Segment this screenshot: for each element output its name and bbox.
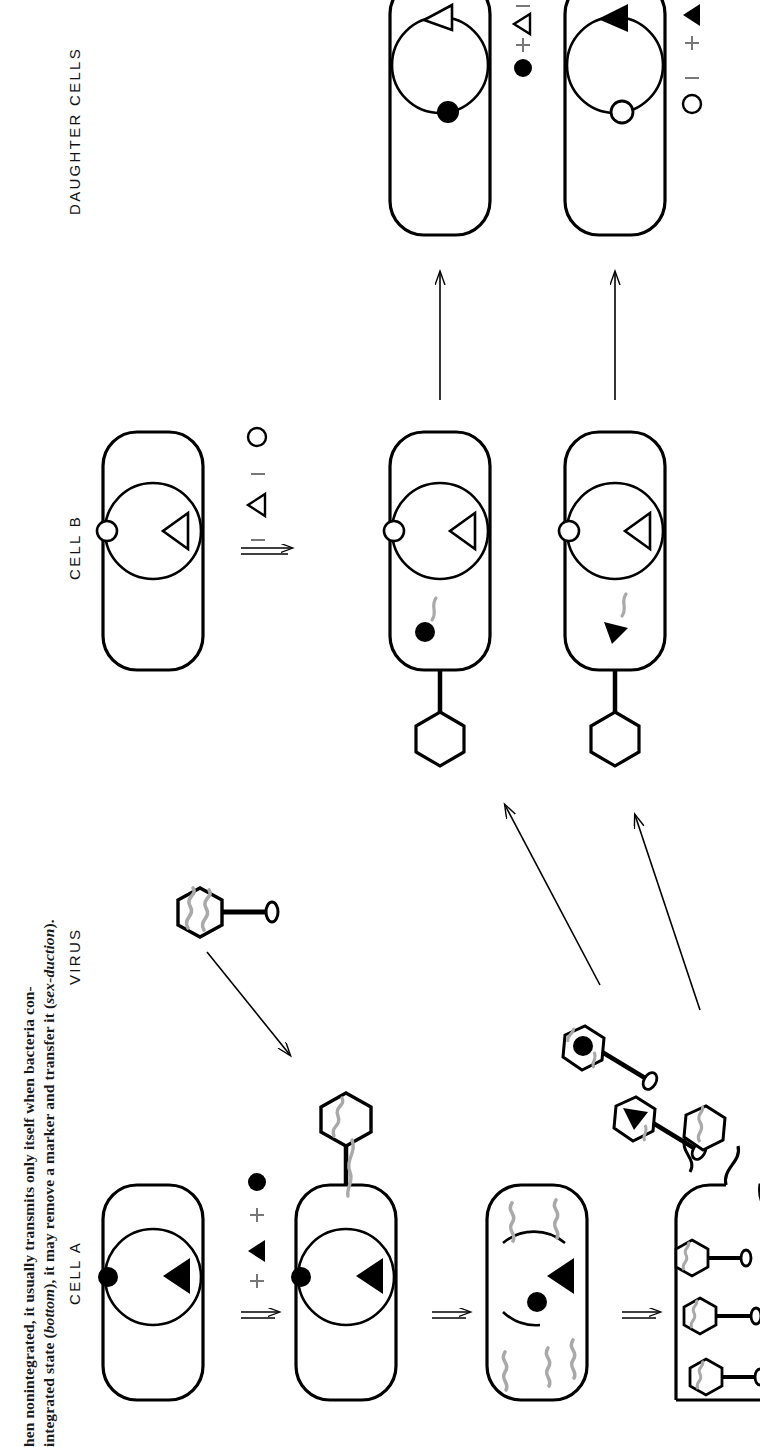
legend-open-circle-icon — [248, 428, 266, 446]
transduced-marker-filled-circle — [573, 1036, 593, 1056]
legend-daughter-1 — [514, 6, 532, 77]
legend-open-circle-icon — [683, 95, 701, 113]
progeny-virus-icon — [684, 1298, 760, 1334]
marker-filled-circle — [437, 101, 459, 123]
transduction-arrow-2 — [635, 815, 700, 1010]
virus-head — [591, 712, 639, 766]
marker-filled-circle — [291, 1267, 311, 1287]
released-virus-with-marker — [563, 1026, 660, 1092]
free-virus-particle — [178, 888, 278, 937]
transduction-arrow-1 — [505, 805, 600, 985]
attached-virus-icon — [321, 1093, 371, 1196]
cell-membrane — [390, 432, 490, 670]
diagram-canvas — [0, 0, 760, 1447]
legend-open-triangle-icon — [514, 14, 530, 34]
legend-open-triangle-icon — [248, 494, 265, 516]
virus-tail-tip — [266, 902, 278, 922]
legend-filled-triangle-icon — [248, 1240, 265, 1262]
daughter-cell-1 — [390, 0, 490, 235]
infection-arrow — [207, 952, 290, 1055]
cell-a-lysing — [563, 1026, 760, 1400]
plus-sign-icon — [250, 1274, 264, 1288]
plus-sign-icon — [685, 36, 699, 50]
cell-membrane — [103, 432, 203, 670]
lysis-opening — [725, 1146, 738, 1185]
process-arrow-a3-a4 — [622, 1312, 660, 1318]
attached-virus-icon — [591, 670, 639, 766]
legend-filled-circle-icon — [248, 1173, 266, 1191]
process-arrow-a1-a2 — [241, 1312, 279, 1318]
attached-virus-icon — [416, 670, 464, 766]
legend-filled-circle-icon — [514, 59, 532, 77]
marker-open-circle — [97, 521, 117, 541]
plus-sign-icon — [250, 1208, 264, 1222]
process-arrow-b1-b2 — [241, 548, 292, 554]
transduced-marker-filled-circle — [415, 622, 435, 642]
cell-b-infected-triangle — [559, 432, 665, 766]
progeny-virus-icon — [676, 1240, 751, 1276]
marker-open-circle — [384, 521, 404, 541]
marker-filled-circle — [98, 1267, 118, 1287]
marker-open-circle — [559, 521, 579, 541]
released-virus-icon — [684, 1106, 725, 1172]
marker-filled-circle — [527, 1292, 547, 1312]
cell-a-infected — [291, 1093, 396, 1400]
progeny-virus-icon — [690, 1359, 760, 1395]
cell-a-intact — [98, 1185, 203, 1400]
legend-cell-a — [248, 1173, 266, 1288]
marker-open-circle — [611, 101, 633, 123]
legend-filled-triangle-icon — [683, 4, 700, 26]
cell-b-infected-marker — [384, 432, 490, 766]
plus-sign-icon — [516, 38, 530, 52]
legend-daughter-2 — [683, 4, 701, 113]
process-arrow-a2-a3 — [432, 1312, 470, 1318]
legend-cell-b — [248, 428, 266, 540]
cell-a-replicating — [487, 1185, 587, 1400]
daughter-cell-2 — [565, 0, 665, 235]
cell-b-intact — [97, 432, 203, 670]
virus-head — [321, 1093, 371, 1146]
virus-head — [416, 712, 464, 766]
virus-head — [178, 888, 222, 937]
